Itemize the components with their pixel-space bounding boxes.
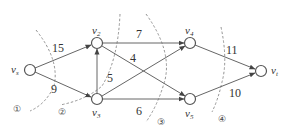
edge-v5-vt [195, 73, 255, 97]
node-label-v2: v2 [92, 24, 101, 38]
capacity-v2-v4: 7 [136, 27, 142, 41]
flow-network-diagram: 15 9 7 4 5 6 11 10 vs v2 v3 v4 v5 vt ① ②… [0, 0, 289, 136]
capacity-v5-vt: 10 [229, 86, 241, 100]
node-label-v4: v4 [185, 24, 194, 38]
node-label-vs: vs [11, 63, 19, 77]
node-v2 [92, 38, 103, 49]
cut-label-1: ① [13, 104, 21, 114]
capacity-vs-v3: 9 [51, 82, 57, 96]
node-label-v5: v5 [185, 107, 194, 121]
capacity-v3-v4: 5 [107, 71, 113, 85]
cut-label-2: ② [58, 107, 66, 117]
cut-line-4 [212, 27, 225, 112]
cut-label-3: ③ [157, 117, 165, 127]
cut-label-4: ④ [218, 114, 226, 124]
node-v3 [92, 94, 103, 105]
capacity-v4-vt: 11 [226, 43, 238, 57]
node-vt [256, 66, 267, 77]
node-v4 [185, 38, 196, 49]
node-vs [25, 65, 36, 76]
node-label-vt: vt [271, 64, 279, 78]
node-label-v3: v3 [92, 106, 101, 120]
capacity-vs-v2: 15 [52, 41, 64, 55]
cut-line-2 [60, 14, 120, 105]
capacity-v3-v5: 6 [136, 104, 142, 118]
capacity-v2-v5: 4 [130, 51, 136, 65]
node-v5 [185, 94, 196, 105]
edge-vs-v3 [35, 72, 91, 97]
